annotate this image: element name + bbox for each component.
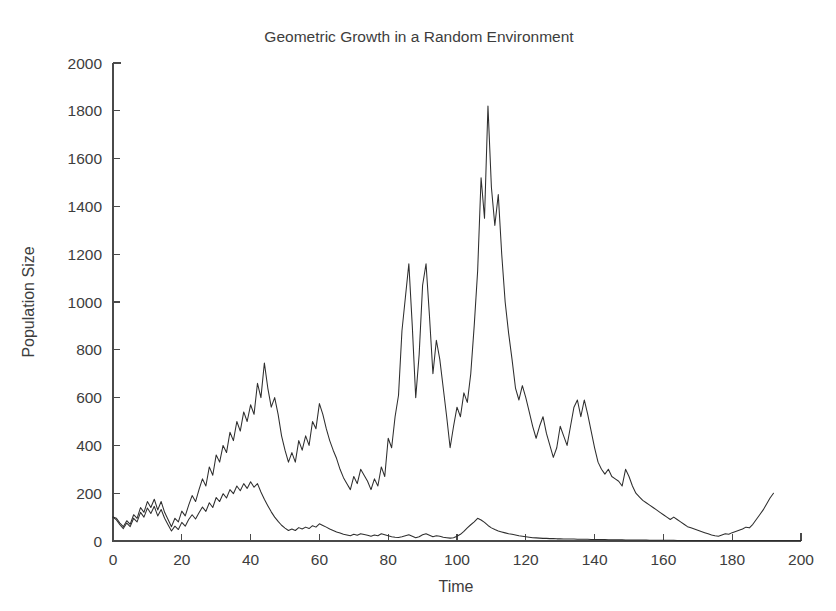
x-tick-label: 40 [242, 551, 260, 568]
y-tick-label: 1000 [68, 294, 103, 311]
x-tick-label: 140 [582, 551, 608, 568]
x-tick-label: 80 [380, 551, 398, 568]
x-tick-label: 100 [444, 551, 470, 568]
y-tick-label: 1400 [68, 198, 103, 215]
x-tick-label: 180 [719, 551, 745, 568]
x-tick-label: 20 [173, 551, 191, 568]
x-tick-label: 120 [513, 551, 539, 568]
figure-background [0, 0, 836, 611]
x-tick-label: 60 [311, 551, 329, 568]
chart-title: Geometric Growth in a Random Environment [264, 28, 574, 45]
chart-figure: Geometric Growth in a Random Environment… [0, 0, 836, 611]
y-tick-label: 400 [76, 437, 102, 454]
y-tick-label: 1600 [68, 150, 103, 167]
y-tick-label: 0 [93, 533, 102, 550]
y-tick-label: 1200 [68, 246, 103, 263]
x-tick-label: 160 [650, 551, 676, 568]
y-tick-label: 800 [76, 341, 102, 358]
chart-canvas: Geometric Growth in a Random Environment… [0, 0, 836, 611]
x-axis-title: Time [439, 578, 474, 595]
x-tick-label: 0 [109, 551, 118, 568]
y-tick-label: 1800 [68, 102, 103, 119]
y-tick-label: 2000 [68, 55, 103, 72]
y-tick-label: 600 [76, 389, 102, 406]
y-axis-title: Population Size [20, 246, 37, 357]
y-tick-label: 200 [76, 485, 102, 502]
x-tick-label: 200 [788, 551, 814, 568]
